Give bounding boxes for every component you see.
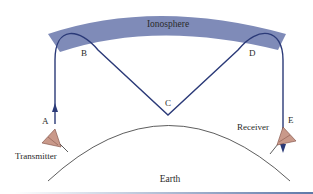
ionosphere-label: Ionosphere — [147, 19, 189, 29]
transmitter-label: Transmitter — [15, 151, 57, 161]
ionosphere-diagram: Ionosphere Earth A B C D E Transmitter R… — [0, 0, 313, 194]
point-e-label: E — [288, 115, 294, 125]
earth-surface — [48, 126, 290, 182]
point-c-label: C — [165, 98, 171, 108]
arrow-up-icon — [52, 103, 58, 112]
earth-label: Earth — [160, 174, 181, 184]
arrow-down-icon — [280, 144, 286, 153]
point-b-label: B — [81, 48, 87, 58]
transmitter-antenna-icon — [42, 129, 68, 152]
receiver-label: Receiver — [237, 122, 269, 132]
point-d-label: D — [249, 48, 256, 58]
point-a-label: A — [42, 116, 49, 126]
bottom-bar — [14, 192, 313, 194]
